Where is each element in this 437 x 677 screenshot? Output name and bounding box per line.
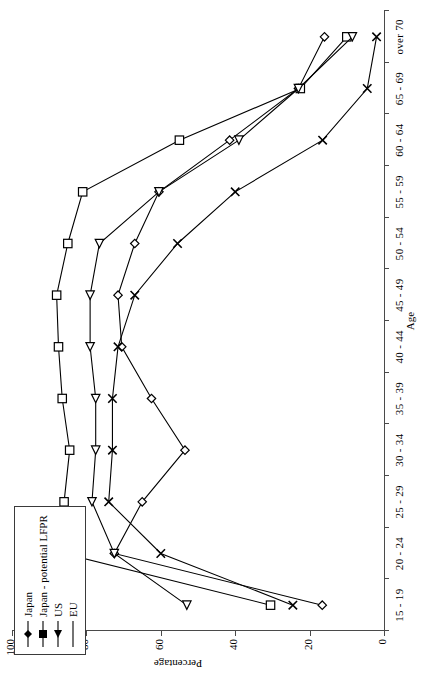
data-point-x [157, 549, 165, 557]
data-point-x [289, 601, 297, 609]
data-point-square [175, 136, 183, 144]
y-tick-label: 20 [302, 639, 314, 669]
legend-label: Japan - potential LFPR [37, 515, 49, 619]
data-point-diamond [131, 239, 139, 247]
x-tick [384, 165, 389, 166]
data-point-diamond [318, 601, 326, 609]
data-point-x [131, 291, 139, 299]
data-point-triangle [183, 601, 191, 609]
x-tick [384, 527, 389, 528]
legend-label: EU [67, 602, 79, 619]
x-tick [384, 423, 389, 424]
y-tick [235, 631, 236, 636]
x-tick [384, 372, 389, 373]
data-point-square [266, 601, 274, 609]
legend-item-japan: Japan [20, 515, 35, 649]
x-tick [384, 217, 389, 218]
y-tick [310, 631, 311, 636]
data-point-x [173, 239, 181, 247]
x-tick [384, 320, 389, 321]
y-tick [161, 631, 162, 636]
legend-label: Japan [22, 592, 34, 619]
data-point-square [39, 630, 47, 638]
rotated-page-wrapper: 15 - 1920 - 2425 - 2930 - 3435 - 3940 - … [0, 0, 437, 677]
y-axis-title: Percentage [118, 658, 238, 670]
data-point-square [65, 446, 73, 454]
x-tick [384, 578, 389, 579]
data-point-triangle [92, 446, 100, 454]
series-japan-potential-lfpr [52, 33, 351, 610]
y-tick [86, 631, 87, 636]
data-point-square [54, 343, 62, 351]
data-point-triangle [88, 498, 96, 506]
legend-label: US [52, 603, 64, 619]
legend-marker-triangle-icon [51, 619, 65, 649]
y-tick [384, 631, 385, 636]
legend-marker-diamond-icon [21, 619, 35, 649]
x-tick [384, 113, 389, 114]
data-point-square [64, 239, 72, 247]
y-tick [12, 631, 13, 636]
x-tick [384, 62, 389, 63]
data-point-triangle [86, 291, 94, 299]
data-point-diamond [225, 136, 233, 144]
data-point-triangle [86, 343, 94, 351]
data-point-x [318, 136, 326, 144]
data-point-diamond [320, 33, 328, 41]
data-point-triangle [235, 136, 243, 144]
data-point-triangle [92, 394, 100, 402]
x-tick [384, 10, 389, 11]
legend-marker-square-icon [36, 619, 50, 649]
data-point-square [58, 394, 66, 402]
chart-figure: 15 - 1920 - 2425 - 2930 - 3435 - 3940 - … [0, 0, 437, 677]
legend-item-eu: EU [65, 515, 80, 649]
legend-item-us: US [50, 515, 65, 649]
data-point-square [60, 498, 68, 506]
data-point-diamond [147, 394, 155, 402]
data-point-square [52, 291, 60, 299]
chart-legend: JapanJapan - potential LFPRUSEU [14, 506, 86, 655]
x-tick [384, 268, 389, 269]
data-point-diamond [114, 291, 122, 299]
legend-item-japan-potential-lfpr: Japan - potential LFPR [35, 515, 50, 649]
y-tick-label: 0 [376, 639, 388, 669]
data-point-square [78, 188, 86, 196]
data-point-x [231, 188, 239, 196]
legend-marker-x-icon [66, 619, 80, 649]
data-point-triangle [54, 630, 62, 638]
series-line [114, 37, 324, 605]
series-japan [110, 33, 329, 610]
x-axis-title: Age [404, 11, 416, 631]
series-line [109, 37, 377, 605]
data-point-diamond [24, 630, 32, 638]
x-tick [384, 475, 389, 476]
series-eu [105, 33, 381, 610]
data-point-triangle [95, 239, 103, 247]
